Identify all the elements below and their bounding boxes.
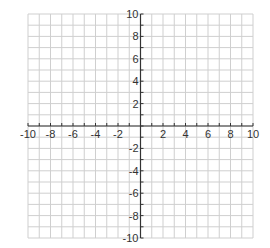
x-tick-label: 6	[205, 128, 211, 140]
y-tick-label: -8	[129, 210, 139, 222]
x-tick-label: 10	[247, 128, 259, 140]
coordinate-plane: -10-8-6-4-2246810 108642-2-4-6-8-10	[0, 0, 270, 248]
x-tick-label: 2	[160, 128, 166, 140]
x-tick-label: -2	[113, 128, 123, 140]
y-tick-label: -4	[129, 165, 139, 177]
x-tick-label: -4	[91, 128, 101, 140]
y-tick-label: -6	[129, 187, 139, 199]
x-tick-label: 8	[227, 128, 233, 140]
x-tick-labels: -10-8-6-4-2246810	[20, 128, 259, 140]
y-tick-label: 8	[132, 30, 138, 42]
y-tick-label: -10	[123, 232, 139, 244]
x-tick-label: 4	[182, 128, 188, 140]
y-tick-label: 2	[132, 98, 138, 110]
y-tick-label: 6	[132, 53, 138, 65]
x-tick-label: -6	[68, 128, 78, 140]
y-tick-label: 4	[132, 75, 138, 87]
y-tick-label: -2	[129, 142, 139, 154]
x-tick-label: -10	[20, 128, 36, 140]
x-tick-label: -8	[46, 128, 56, 140]
y-tick-label: 10	[126, 8, 138, 20]
